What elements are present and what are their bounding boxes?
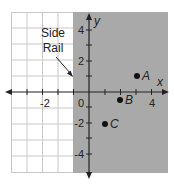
y-axis-label: y xyxy=(93,14,101,28)
y-axis-down-arrow-icon xyxy=(86,172,92,179)
point-c-label: C xyxy=(110,117,119,131)
x-tick-label-neg2: -2 xyxy=(40,97,50,109)
y-tick-label-neg4: -4 xyxy=(74,148,84,160)
x-axis-left-arrow-icon xyxy=(5,89,12,95)
annotation-rail: Rail xyxy=(43,41,64,55)
x-axis-label: x xyxy=(156,75,164,89)
x-tick-label-4: 4 xyxy=(149,97,155,109)
point-b-dot xyxy=(117,97,123,103)
y-tick-label-4: 4 xyxy=(78,24,84,36)
y-tick-label-2: 2 xyxy=(78,55,84,67)
point-b-label: B xyxy=(125,93,133,107)
point-a-label: A xyxy=(141,69,150,83)
coordinate-plane: y x -2 0 4 4 2 -2 -4 Side Rail A B C xyxy=(0,0,174,184)
origin-label: 0 xyxy=(78,97,84,109)
point-a-dot xyxy=(134,73,140,79)
y-tick-label-neg2: -2 xyxy=(74,117,84,129)
annotation-side: Side xyxy=(41,26,65,40)
point-c-dot xyxy=(102,121,108,127)
